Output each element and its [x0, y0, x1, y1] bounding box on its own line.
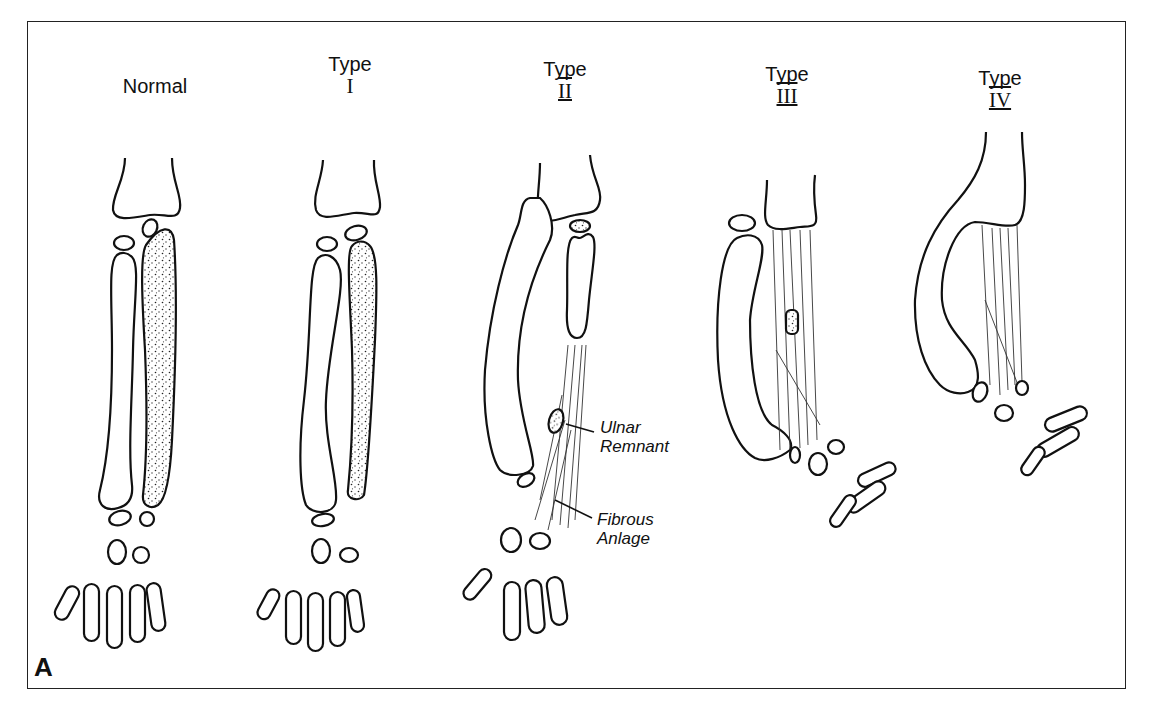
type-1-forearm: [255, 160, 380, 651]
fibrous-anlage: [773, 230, 820, 450]
ulnar-remnant: [546, 408, 566, 435]
type-3-forearm: [717, 175, 897, 529]
normal-forearm: [52, 158, 180, 648]
type-4-forearm: [915, 132, 1089, 478]
fibrous-anlage: [982, 225, 1022, 395]
ulnar-deficiency-classification-figure: Normal Type I Type II Type III Type IV U…: [0, 0, 1153, 716]
bone-illustrations: [0, 0, 1153, 716]
ulnar-remnant-leader: [566, 424, 594, 432]
ulnar-remnant: [786, 310, 798, 334]
type-2-forearm: [461, 155, 600, 640]
